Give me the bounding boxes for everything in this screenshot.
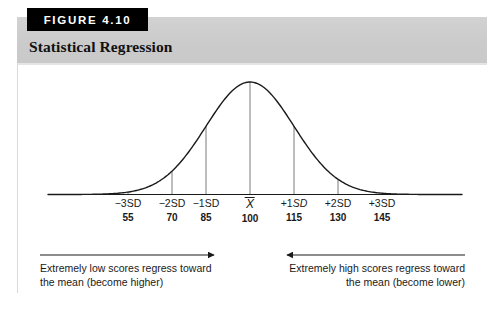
axis-tick-sd-label-1: −2SD — [159, 197, 186, 210]
axis-tick-value-3: 100 — [242, 212, 259, 225]
caption-high-scores: Extremely high scores regress toward the… — [265, 262, 465, 289]
mean-symbol: X — [245, 197, 255, 210]
caption-low-scores-line1: Extremely low scores regress toward — [40, 262, 240, 276]
axis-tick-value-6: 145 — [369, 211, 396, 224]
axis-tick-value-0: 55 — [115, 211, 142, 224]
axis-tick-value-4: 115 — [281, 211, 308, 224]
axis-tick-sd-label-2: −1SD — [193, 197, 220, 210]
axis-tick-0: −3SD55 — [115, 197, 142, 224]
axis-tick-4: +1SD115 — [281, 197, 308, 224]
axis-tick-2: −1SD85 — [193, 197, 220, 224]
axis-tick-sd-label-5: +2SD — [325, 197, 352, 210]
axis-tick-6: +3SD145 — [369, 197, 396, 224]
axis-tick-labels: −3SD55−2SD70−1SD85X100+1SD115+2SD130+3SD… — [0, 197, 503, 229]
caption-low-scores-line2: the mean (become higher) — [40, 276, 240, 290]
caption-high-scores-line1: Extremely high scores regress toward — [265, 262, 465, 276]
figure-container: FIGURE 4.10 Statistical Regression — [0, 0, 503, 310]
normal-curve — [48, 82, 462, 194]
axis-tick-1: −2SD70 — [159, 197, 186, 224]
caption-high-scores-line2: the mean (become lower) — [265, 276, 465, 290]
axis-tick-sd-label-0: −3SD — [115, 197, 142, 210]
axis-tick-sd-label-4: +1SD — [281, 197, 308, 210]
axis-tick-value-1: 70 — [159, 211, 186, 224]
axis-tick-3: X100 — [242, 197, 259, 225]
axis-tick-sd-label-6: +3SD — [369, 197, 396, 210]
caption-low-scores: Extremely low scores regress toward the … — [40, 262, 240, 289]
axis-tick-sd-label-3: X — [242, 197, 259, 211]
axis-tick-5: +2SD130 — [325, 197, 352, 224]
axis-tick-value-2: 85 — [193, 211, 220, 224]
sd-gridlines — [128, 82, 382, 195]
axis-tick-value-5: 130 — [325, 211, 352, 224]
